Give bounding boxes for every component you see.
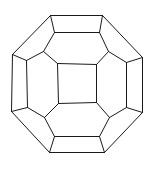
edge-s1-s2 — [58, 64, 97, 65]
edge-c3-s3 — [97, 103, 110, 118]
edge-s3-s4 — [59, 103, 97, 104]
edge-o5-b1 — [100, 137, 105, 153]
edge-l1-l2 — [27, 61, 28, 108]
edge-t2-c2 — [100, 33, 109, 52]
polyhedron-diagram — [0, 0, 153, 169]
edge-o3-r1 — [127, 58, 143, 63]
edge-group — [12, 16, 143, 153]
edge-r2-c3 — [110, 108, 127, 118]
edge-c3-b1 — [100, 118, 110, 137]
edge-o2-t2 — [100, 16, 103, 33]
edge-o7-o8 — [12, 55, 13, 112]
edge-o4-r2 — [127, 108, 143, 113]
edge-o7-l1 — [12, 108, 28, 112]
edge-o8-l2 — [13, 55, 27, 61]
edge-b2-c4 — [45, 118, 55, 137]
edge-o6-b2 — [50, 137, 55, 153]
edge-c1-s1 — [44, 52, 58, 64]
edge-t1-c1 — [44, 33, 55, 52]
edge-o4-o5 — [105, 113, 143, 153]
edge-c4-s4 — [45, 104, 59, 118]
edge-c4-l1 — [28, 108, 45, 118]
polyhedron-drawing — [0, 0, 153, 169]
edge-c1-l2 — [27, 52, 44, 61]
edge-c2-s2 — [97, 52, 109, 65]
edge-s4-s1 — [58, 64, 59, 104]
edge-c2-r1 — [109, 52, 127, 63]
edge-o1-t1 — [51, 16, 55, 33]
